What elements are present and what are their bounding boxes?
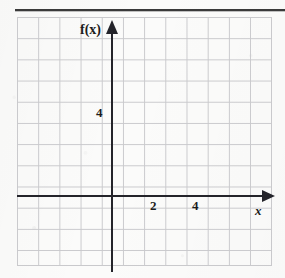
y-axis-label: f(x) — [80, 23, 101, 37]
y-tick-label-4: 4 — [96, 106, 103, 119]
y-axis-line — [111, 30, 113, 272]
y-axis-arrowhead-icon — [106, 20, 118, 34]
grid-bottom-border — [17, 265, 272, 266]
coordinate-grid-figure: f(x) x 4 2 4 — [0, 0, 285, 278]
top-horizontal-rule-shadow — [15, 11, 285, 12]
grid-lines — [17, 17, 271, 265]
grid-right-border — [271, 17, 272, 266]
x-axis-arrowhead-icon — [262, 190, 275, 202]
x-axis-label: x — [255, 204, 262, 217]
x-tick-label-4: 4 — [192, 199, 199, 212]
x-tick-label-2: 2 — [150, 199, 157, 212]
x-axis-line — [17, 195, 268, 197]
